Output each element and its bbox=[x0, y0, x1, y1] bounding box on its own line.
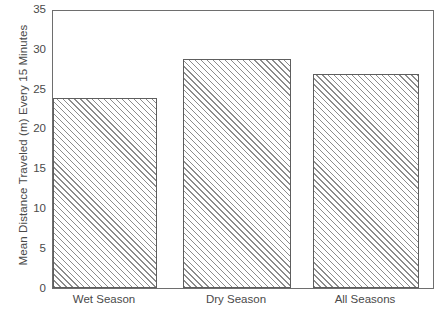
y-tick-label-0: 0 bbox=[20, 283, 46, 295]
x-tick-label-dry-season: Dry Season bbox=[182, 293, 290, 305]
y-tick-label-30: 30 bbox=[20, 44, 46, 56]
bar-all-seasons bbox=[313, 74, 419, 288]
bar-dry-season bbox=[183, 59, 291, 289]
y-tick-label-25: 25 bbox=[20, 84, 46, 96]
y-axis-tick-labels: 35 30 25 20 15 10 5 0 bbox=[20, 0, 46, 309]
plot-area bbox=[52, 10, 434, 289]
x-tick-label-wet-season: Wet Season bbox=[52, 293, 156, 305]
y-tick-label-20: 20 bbox=[20, 123, 46, 135]
bar-wet-season bbox=[53, 98, 157, 288]
plot-inner bbox=[53, 11, 433, 288]
y-tick-label-5: 5 bbox=[20, 243, 46, 255]
y-tick-label-35: 35 bbox=[20, 4, 46, 16]
bar-chart: Mean Distance Traveled (m) Every 15 Minu… bbox=[0, 0, 438, 309]
x-tick-label-all-seasons: All Seasons bbox=[312, 293, 418, 305]
y-tick-label-15: 15 bbox=[20, 163, 46, 175]
y-tick-label-10: 10 bbox=[20, 203, 46, 215]
